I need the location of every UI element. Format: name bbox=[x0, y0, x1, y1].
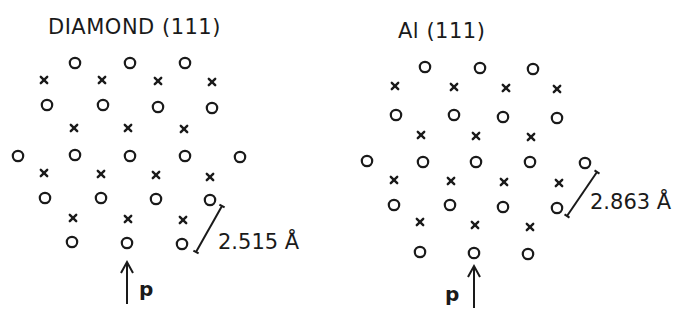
cross-atom bbox=[472, 222, 478, 228]
cross-atom bbox=[418, 132, 424, 138]
cross-atom bbox=[153, 172, 159, 178]
circle-atom bbox=[552, 113, 562, 123]
spacing-label: 2.515 Å bbox=[218, 228, 300, 254]
circle-atom bbox=[70, 58, 80, 68]
circle-atom bbox=[415, 247, 425, 257]
cross-atom bbox=[125, 125, 131, 131]
panel-title: Al (111) bbox=[398, 19, 485, 43]
cross-atom bbox=[503, 85, 509, 91]
circle-atom bbox=[389, 200, 399, 210]
spacing-label: 2.863 Å bbox=[590, 188, 672, 214]
circle-atom bbox=[180, 151, 190, 161]
cross-atom bbox=[451, 84, 457, 90]
diamond-111-panel: DIAMOND (111) 2.515 Å p bbox=[13, 15, 300, 304]
circle-atom bbox=[525, 157, 535, 167]
cross-atom bbox=[41, 170, 47, 176]
circle-atom bbox=[418, 157, 428, 167]
circle-atom bbox=[40, 193, 50, 203]
circle-atom bbox=[98, 100, 108, 110]
circle-atom bbox=[475, 63, 485, 73]
circle-atom bbox=[67, 237, 77, 247]
arrow-up-icon bbox=[468, 266, 480, 308]
cross-atom bbox=[391, 177, 397, 183]
circle-atom bbox=[13, 151, 23, 161]
circle-atom bbox=[498, 202, 508, 212]
circle-atom bbox=[420, 62, 430, 72]
cross-atom bbox=[554, 86, 560, 92]
cross-atom bbox=[155, 78, 161, 84]
circle-atom bbox=[235, 152, 245, 162]
cross-atom bbox=[180, 217, 186, 223]
cross-atom bbox=[181, 126, 187, 132]
circle-atom bbox=[552, 203, 562, 213]
cross-atom bbox=[527, 224, 533, 230]
cross-atom bbox=[392, 83, 398, 89]
circle-atom bbox=[96, 193, 106, 203]
cross-atom bbox=[207, 174, 213, 180]
circle-atom bbox=[151, 194, 161, 204]
circle-atom bbox=[122, 238, 132, 248]
circle-atom bbox=[580, 158, 590, 168]
circle-atom bbox=[42, 100, 52, 110]
cross-atom bbox=[41, 77, 47, 83]
circle-atom bbox=[205, 195, 215, 205]
circle-atom bbox=[125, 151, 135, 161]
circle-atom bbox=[180, 58, 190, 68]
circle-atom bbox=[445, 200, 455, 210]
cross-atom bbox=[417, 219, 423, 225]
cross-atoms bbox=[41, 77, 215, 223]
circle-atom bbox=[528, 64, 538, 74]
direction-p-label: p bbox=[445, 282, 459, 306]
circle-atom bbox=[153, 102, 163, 112]
circle-atom bbox=[498, 112, 508, 122]
cross-atom bbox=[70, 215, 76, 221]
direction-p-label: p bbox=[139, 277, 153, 301]
cross-atom bbox=[556, 180, 562, 186]
circle-atom bbox=[523, 249, 533, 259]
cross-atom bbox=[125, 216, 131, 222]
circle-atom bbox=[469, 248, 479, 258]
circle-atom bbox=[449, 110, 459, 120]
lattice-diagram: DIAMOND (111) 2.515 Å p Al (111) 2.863 Å… bbox=[0, 0, 682, 332]
cross-atom bbox=[209, 79, 215, 85]
cross-atom bbox=[473, 133, 479, 139]
cross-atom bbox=[71, 125, 77, 131]
arrow-up-icon bbox=[121, 262, 133, 304]
circle-atom bbox=[177, 239, 187, 249]
circle-atom bbox=[207, 103, 217, 113]
aluminium-111-panel: Al (111) 2.863 Å p bbox=[362, 19, 672, 308]
circle-atom bbox=[70, 150, 80, 160]
circle-atom bbox=[362, 156, 372, 166]
cross-atom bbox=[98, 171, 104, 177]
cross-atom bbox=[448, 178, 454, 184]
circle-atom bbox=[125, 58, 135, 68]
cross-atom bbox=[528, 134, 534, 140]
circle-atom bbox=[471, 157, 481, 167]
cross-atom bbox=[501, 179, 507, 185]
panel-title: DIAMOND (111) bbox=[48, 15, 221, 39]
circle-atom bbox=[391, 110, 401, 120]
cross-atom bbox=[99, 77, 105, 83]
